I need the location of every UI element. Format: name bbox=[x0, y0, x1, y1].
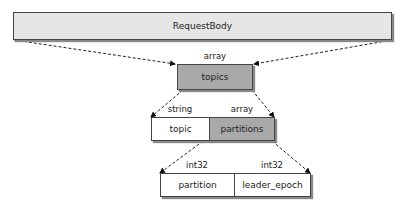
topics-node: topics bbox=[177, 64, 253, 90]
leader-epoch-type-label: int32 bbox=[234, 160, 310, 170]
partitions-node: partitions bbox=[209, 117, 275, 141]
partitions-label: partitions bbox=[221, 124, 264, 134]
topic-label: topic bbox=[169, 124, 191, 134]
request-body-node: RequestBody bbox=[13, 12, 392, 40]
partition-label: partition bbox=[178, 180, 216, 190]
partitions-type-label: array bbox=[209, 104, 275, 114]
topics-label: topics bbox=[202, 72, 229, 82]
partition-node: partition bbox=[160, 173, 235, 197]
request-body-label: RequestBody bbox=[173, 21, 232, 31]
topics-type-label: array bbox=[177, 51, 253, 61]
leader-epoch-node: leader_epoch bbox=[234, 173, 311, 197]
leader-epoch-label: leader_epoch bbox=[242, 180, 302, 190]
partition-type-label: int32 bbox=[160, 160, 234, 170]
topic-type-label: string bbox=[151, 104, 209, 114]
topic-node: topic bbox=[151, 117, 210, 141]
